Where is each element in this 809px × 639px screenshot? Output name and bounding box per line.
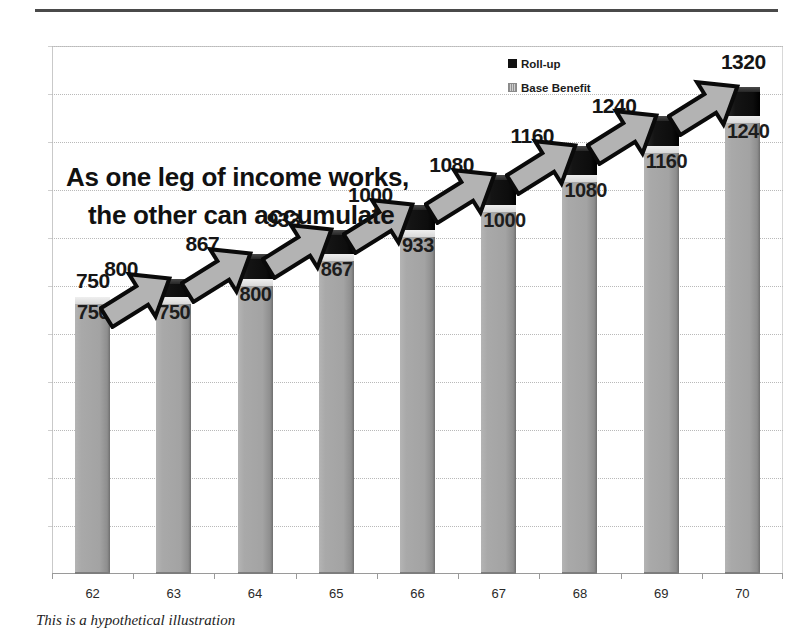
bar-group: [562, 146, 597, 574]
x-axis-tick: [702, 574, 703, 579]
y-axis-minor-tick: [48, 286, 52, 287]
growth-arrow-icon: [505, 134, 583, 196]
y-axis-minor-tick: [48, 46, 52, 47]
y-axis-minor-tick: [48, 430, 52, 431]
y-axis-minor-tick: [48, 526, 52, 527]
bar-segment-base-benefit: [238, 279, 273, 574]
gridline: [52, 46, 783, 47]
bar-segment-base-benefit: [562, 175, 597, 574]
x-axis-tick: [377, 574, 378, 579]
chart-plot-area: 7507506275080063800867648679336593310006…: [52, 46, 783, 574]
y-axis-minor-tick: [48, 142, 52, 143]
bar-group: [400, 205, 435, 574]
x-axis-label: 68: [539, 586, 620, 601]
bar-segment-base-benefit: [481, 205, 516, 574]
bar-group: [319, 230, 354, 574]
chart-callout-title: As one leg of income works, the other ca…: [66, 158, 496, 234]
callout-line-2: the other can accumulate: [88, 196, 496, 234]
y-axis-minor-tick: [48, 94, 52, 95]
bar-total-value-label: 1320: [721, 50, 766, 74]
bar-group: [725, 87, 760, 574]
y-axis-minor-tick: [48, 334, 52, 335]
growth-arrow-icon: [99, 267, 177, 329]
legend-label-rollup: Roll-up: [521, 58, 561, 70]
legend-swatch-rollup-icon: [508, 59, 517, 68]
bar-segment-base-benefit: [75, 297, 110, 574]
x-axis-label: 69: [621, 586, 702, 601]
legend-swatch-base-benefit-icon: [508, 83, 517, 92]
x-axis-label: 67: [458, 586, 539, 601]
top-divider-rule: [35, 9, 778, 12]
x-axis-tick: [458, 574, 459, 579]
y-axis-minor-tick: [48, 478, 52, 479]
callout-line-1: As one leg of income works,: [66, 162, 409, 192]
x-axis-tick: [782, 574, 783, 579]
bar-segment-base-benefit: [725, 116, 760, 574]
x-axis-label: 70: [702, 586, 783, 601]
x-axis-tick: [214, 574, 215, 579]
bar-segment-base-benefit: [644, 146, 679, 574]
growth-arrow-icon: [667, 75, 745, 137]
chart-footnote: This is a hypothetical illustration: [36, 612, 235, 629]
x-axis-label: 65: [296, 586, 377, 601]
x-axis-tick: [296, 574, 297, 579]
y-axis-minor-tick: [48, 382, 52, 383]
chart-page: 7507506275080063800867648679336593310006…: [0, 0, 809, 639]
bar-segment-base-benefit: [319, 254, 354, 574]
x-axis-label: 66: [377, 586, 458, 601]
bar-segment-base-benefit: [156, 297, 191, 574]
x-axis-label: 64: [214, 586, 295, 601]
legend-item-base-benefit: Base Benefit: [508, 81, 591, 94]
bar-group: [644, 116, 679, 574]
legend-item-rollup: Roll-up: [508, 57, 591, 70]
legend-label-base-benefit: Base Benefit: [521, 82, 591, 94]
bar-group: [481, 175, 516, 574]
y-axis-minor-tick: [48, 190, 52, 191]
x-axis-tick: [52, 574, 53, 579]
x-axis-tick: [133, 574, 134, 579]
x-axis-tick: [539, 574, 540, 579]
growth-arrow-icon: [586, 104, 664, 166]
bar-segment-base-benefit: [400, 230, 435, 574]
growth-arrow-icon: [180, 242, 258, 304]
x-axis-label: 62: [52, 586, 133, 601]
bar-group: [75, 297, 110, 574]
x-axis-label: 63: [133, 586, 214, 601]
x-axis-tick: [621, 574, 622, 579]
y-axis-minor-tick: [48, 238, 52, 239]
chart-legend: Roll-up Base Benefit: [508, 57, 591, 105]
